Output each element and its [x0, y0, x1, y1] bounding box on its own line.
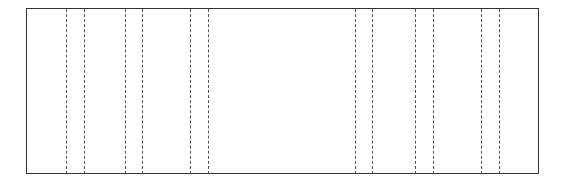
dashed-line-4-right	[372, 9, 373, 174]
dashed-line-2-right	[142, 9, 143, 174]
dashed-line-4-left	[355, 9, 356, 174]
dashed-line-5-left	[415, 9, 416, 174]
dashed-line-1-left	[66, 9, 67, 174]
diagram-frame	[26, 8, 539, 174]
dashed-line-5-right	[433, 9, 434, 174]
dashed-line-6-right	[499, 9, 500, 174]
dashed-line-3-left	[190, 9, 191, 174]
dashed-line-3-right	[208, 9, 209, 174]
dashed-line-1-right	[84, 9, 85, 174]
dashed-line-6-left	[481, 9, 482, 174]
dashed-line-2-left	[125, 9, 126, 174]
